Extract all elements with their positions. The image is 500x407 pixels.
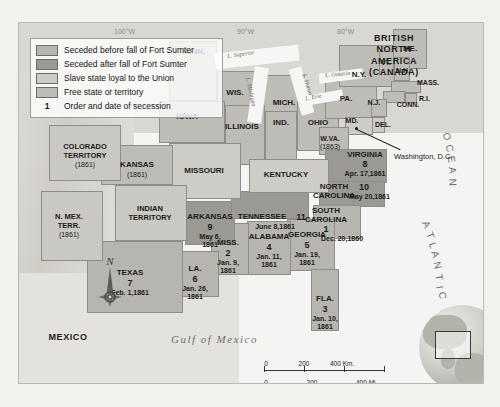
state-label-ohio: OHIO (301, 119, 335, 128)
state-date-fla: Jan. 10, 1861 (303, 315, 347, 330)
globe-inset (419, 305, 484, 384)
state-date-alabama: Jan. 11, 1861 (243, 253, 295, 268)
state-label-illinois: ILLINOIS (217, 123, 267, 132)
globe-locator-box (435, 331, 471, 359)
state-date-la: Jan. 26, 1861 (171, 285, 219, 300)
state-label-colorado-date: (1861) (51, 161, 119, 169)
state-order-miss: 2 (209, 249, 247, 259)
state-label-wva-date: (1863) (315, 143, 345, 151)
state-date-virginia: Apr. 17,1861 (329, 170, 401, 178)
legend-swatch-slave-loyal (36, 73, 58, 84)
map-legend: Seceded before fall of Fort Sumter Seced… (30, 38, 223, 118)
secession-map: L. Superior L. Michigan L. Huron L. Onta… (0, 0, 500, 407)
state-label-ind: IND. (267, 119, 295, 128)
scale-km-400: 400 Km. (330, 360, 354, 367)
scale-bar-km: 0 200 400 Km. (264, 364, 404, 376)
scale-mi-0: 0 (264, 379, 268, 384)
state-label-fla: FLA. (307, 295, 343, 304)
state-order-virginia: 8 (339, 160, 391, 170)
legend-item-seceded-after: Seceded after fall of Fort Sumter (36, 57, 217, 71)
state-label-md: MD. (341, 117, 363, 125)
scale-km-0: 0 (264, 360, 268, 367)
state-label-ny: N.Y. (345, 71, 373, 80)
region-label-mexico: MEXICO (33, 333, 103, 343)
legend-item-free-state: Free state or territory (36, 85, 217, 99)
legend-swatch-seceded-before (36, 45, 58, 56)
water-label-gulf-of-mexico: Gulf of Mexico (171, 333, 258, 345)
state-date-nc: May 20,1861 (349, 193, 413, 201)
legend-item-slave-loyal: Slave state loyal to the Union (36, 71, 217, 85)
state-label-missouri: MISSOURI (171, 167, 237, 176)
legend-label-seceded-after: Seceded after fall of Fort Sumter (64, 59, 187, 69)
longitude-label-100w: 100°W (114, 28, 135, 35)
state-label-conn: CONN. (391, 101, 425, 109)
state-order-nc: 10 (355, 183, 373, 193)
legend-label-seceded-before: Seceded before fall of Fort Sumter (64, 45, 194, 55)
state-label-indian-territory: INDIAN TERRITORY (117, 205, 183, 222)
state-order-tennessee: 11 (293, 213, 309, 223)
state-order-arkansas: 9 (181, 223, 239, 233)
longitude-label-90w: 90°W (237, 28, 254, 35)
legend-label-free-state: Free state or territory (64, 87, 143, 97)
state-label-vt: VT. (375, 59, 397, 67)
state-label-kansas-date: (1861) (109, 171, 165, 179)
state-label-me: ME. (397, 45, 423, 54)
state-label-tennessee: TENNESSEE (231, 213, 293, 222)
state-order-la: 6 (179, 275, 211, 285)
scale-km-200: 200 (299, 360, 310, 367)
legend-swatch-free-state (36, 87, 58, 98)
scale-mi-200: 200 (307, 379, 318, 384)
state-date-miss: Jan. 9, 1861 (209, 259, 247, 274)
city-label-washington-dc: Washington, D.C. (394, 153, 468, 161)
state-date-arkansas: May 6, 1861 (181, 233, 239, 248)
state-order-alabama: 4 (243, 243, 295, 253)
state-label-mass: MASS. (417, 79, 451, 87)
scale-bar-mi: 0 200 400 Mi. (264, 383, 404, 384)
state-label-nmex-date: (1861) (41, 231, 97, 239)
state-label-wva: W.VA. (315, 135, 345, 143)
legend-label-order-date: Order and date of secession (64, 101, 171, 111)
state-label-pa: PA. (333, 95, 359, 104)
state-order-fla: 3 (307, 305, 343, 315)
compass-rose: N (91, 251, 129, 313)
svg-text:N: N (105, 255, 114, 267)
legend-item-seceded-before: Seceded before fall of Fort Sumter (36, 43, 217, 57)
state-label-la: LA. (179, 265, 211, 274)
legend-item-order-date: 1 Order and date of secession (36, 99, 217, 113)
state-label-nmex: N. MEX. TERR. (41, 213, 97, 230)
legend-swatch-seceded-after (36, 59, 58, 70)
scale-bars: 0 200 400 Km. 0 200 400 Mi. (264, 364, 404, 384)
state-label-nj: N.J. (363, 99, 385, 107)
state-label-nh: N.H. (391, 67, 415, 75)
scale-mi-400: 400 Mi. (356, 379, 377, 384)
legend-label-slave-loyal: Slave state loyal to the Union (64, 73, 174, 83)
state-label-kentucky: KENTUCKY (255, 171, 317, 180)
state-label-colorado: COLORADO TERRITORY (51, 143, 119, 160)
state-label-alabama: ALABAMA (243, 233, 295, 242)
legend-key-order-number: 1 (36, 101, 58, 111)
state-date-tennessee: June 8,1861 (241, 223, 309, 231)
state-label-mich: MICH. (265, 99, 303, 108)
state-label-del: DEL. (371, 121, 395, 129)
